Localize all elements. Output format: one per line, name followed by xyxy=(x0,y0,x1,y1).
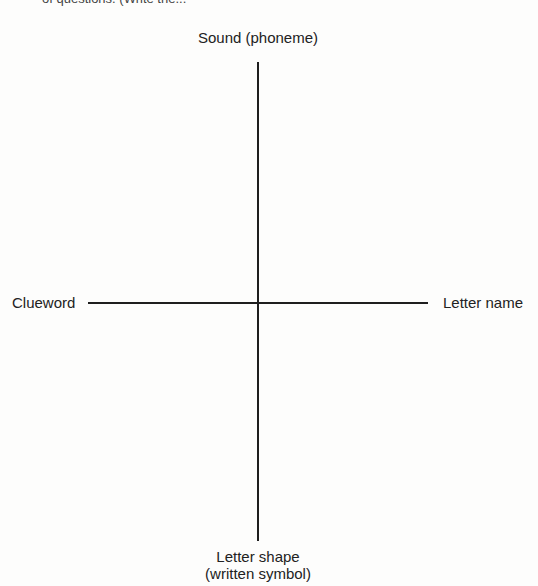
label-clueword: Clueword xyxy=(12,294,75,311)
label-letter-shape-line1: Letter shape xyxy=(0,548,516,565)
label-letter-shape-line2: (written symbol) xyxy=(0,565,516,582)
label-letter-name: Letter name xyxy=(443,294,523,311)
clipped-header-text: of questions. (Write the... xyxy=(42,0,186,6)
label-letter-shape: Letter shape (written symbol) xyxy=(0,548,516,582)
vertical-axis-line xyxy=(257,62,259,541)
label-sound-phoneme: Sound (phoneme) xyxy=(0,29,516,46)
